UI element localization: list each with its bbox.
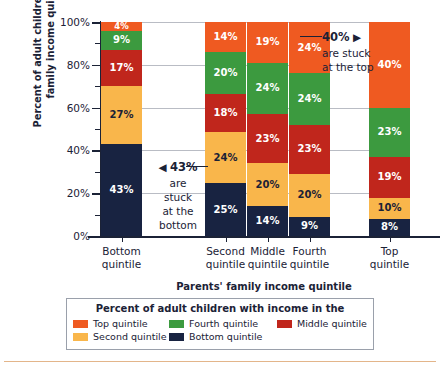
bar-segment[interactable]: 18% [205,94,246,132]
x-axis-line [88,236,440,238]
y-axis-tick-label: 40% [42,144,90,156]
annotation-bottom-line4: bottom [145,218,211,232]
legend-swatch-icon [73,320,88,328]
legend-item[interactable]: Top quintile [73,318,169,329]
legend-item[interactable]: Second quintile [73,331,169,342]
bar-segment[interactable]: 19% [369,157,410,198]
bar-segment[interactable]: 24% [247,63,288,114]
x-axis-label-top: Topquintile [355,245,425,271]
annotation-bottom-arrow-icon: ◀ [159,161,167,173]
legend-item[interactable]: Bottom quintile [169,331,277,342]
bar-segment[interactable]: 9% [101,31,142,50]
x-axis-tick [310,236,312,242]
x-axis-label-line2: quintile [355,258,425,271]
y-axis-tick [92,22,101,24]
y-axis-tick-label: 100% [42,16,90,28]
y-axis-tick [92,193,101,195]
y-axis-minor-tick [95,172,101,173]
bar-segment[interactable]: 20% [289,174,330,217]
legend-swatch-icon [277,320,292,328]
annotation-bottom-line3: at the [145,204,211,218]
x-axis-title: Parents' family income quintile [88,281,440,292]
annotation-top-line1: are stuck [322,46,396,60]
y-axis-minor-tick [95,215,101,216]
y-axis-tick [92,236,101,238]
bar-bottom-quintile[interactable]: 43%27%17%9%4% [101,22,142,236]
legend-item[interactable]: Middle quintile [277,318,367,329]
legend-items: Top quintileFourth quintileMiddle quinti… [73,318,367,342]
annotation-bottom-line2: stuck [145,190,211,204]
legend-label: Fourth quintile [189,318,258,329]
y-axis-minor-tick [95,43,101,44]
x-axis-tick [390,236,392,242]
legend-swatch-icon [169,320,184,328]
bar-segment[interactable]: 43% [101,144,142,236]
bar-segment[interactable]: 27% [101,86,142,144]
bar-segment[interactable]: 4% [101,22,142,31]
y-axis-minor-tick [95,129,101,130]
legend-label: Top quintile [93,318,148,329]
annotation-stuck-at-top: 40% ▶ are stuck at the top [322,30,396,74]
x-axis-label-line2: quintile [275,258,345,271]
legend-swatch-icon [169,333,184,341]
legend-label: Middle quintile [297,318,367,329]
x-axis-label-line1: Top [355,245,425,258]
bar-segment[interactable]: 10% [369,198,410,219]
annotation-top-arrow-icon: ▶ [353,31,361,43]
bar-segment[interactable]: 14% [247,206,288,236]
legend-title: Percent of adult children with income in… [73,303,367,314]
chart-legend: Percent of adult children with income in… [66,298,374,350]
annotation-top-line2: at the top [322,60,396,74]
bar-segment[interactable]: 19% [247,22,288,63]
y-axis-tick-label: 20% [42,187,90,199]
bar-segment[interactable]: 20% [247,163,288,206]
bar-segment[interactable]: 23% [289,125,330,174]
bar-segment[interactable]: 20% [205,52,246,94]
annotation-bottom-line1: are [145,176,211,190]
x-axis-label-line1: Fourth [275,245,345,258]
y-axis-tick-label: 0% [42,230,90,242]
annotation-bottom-value: 43% [170,160,198,174]
x-axis-tick [226,236,228,242]
bar-segment[interactable]: 8% [369,219,410,236]
bar-segment[interactable]: 23% [247,114,288,163]
annotation-stuck-at-bottom: ◀ 43% are stuck at the bottom [145,160,211,232]
bar-middle-quintile[interactable]: 14%20%23%24%19% [247,22,288,236]
y-axis-tick [92,150,101,152]
legend-label: Second quintile [93,331,167,342]
x-axis-tick [122,236,124,242]
legend-label: Bottom quintile [189,331,262,342]
chart-figure: Percent of adult children in each family… [0,0,440,370]
bar-second-quintile[interactable]: 25%24%18%20%14% [205,22,246,236]
legend-item[interactable]: Fourth quintile [169,318,277,329]
y-axis-tick-label: 60% [42,102,90,114]
legend-swatch-icon [73,333,88,341]
bar-segment[interactable]: 25% [205,183,246,236]
bar-segment[interactable]: 9% [289,217,330,236]
x-axis-label-line1: Bottom [87,245,157,258]
y-axis-tick [92,108,101,110]
y-axis-minor-tick [95,86,101,87]
annotation-leader-line [186,166,208,167]
annotation-leader-line [300,36,322,37]
bar-segment[interactable]: 17% [101,50,142,86]
footer-rule [4,361,436,363]
x-axis-tick [268,236,270,242]
bar-segment[interactable]: 24% [205,132,246,183]
bar-segment[interactable]: 14% [205,22,246,52]
bar-segment[interactable]: 24% [289,73,330,124]
y-axis-tick [92,65,101,67]
y-axis-tick-label: 80% [42,59,90,71]
x-axis-label-bottom: Bottomquintile [87,245,157,271]
x-axis-label-fourth: Fourthquintile [275,245,345,271]
x-axis-label-line2: quintile [87,258,157,271]
bar-segment[interactable]: 23% [369,108,410,157]
annotation-top-value: 40% [322,30,350,44]
